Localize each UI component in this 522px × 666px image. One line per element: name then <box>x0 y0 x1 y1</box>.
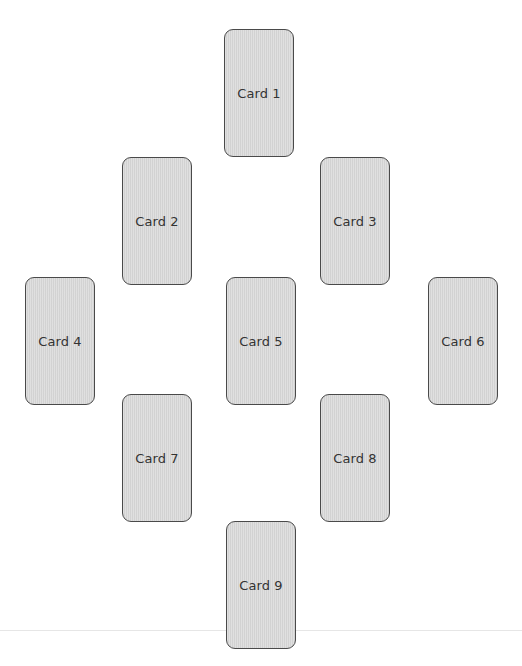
card-6: Card 6 <box>428 277 498 405</box>
card-2: Card 2 <box>122 157 192 285</box>
card-label: Card 4 <box>38 334 81 349</box>
card-8: Card 8 <box>320 394 390 522</box>
card-label: Card 1 <box>237 86 280 101</box>
card-label: Card 2 <box>135 214 178 229</box>
card-1: Card 1 <box>224 29 294 157</box>
card-label: Card 5 <box>239 334 282 349</box>
card-label: Card 3 <box>333 214 376 229</box>
card-label: Card 6 <box>441 334 484 349</box>
card-9: Card 9 <box>226 521 296 649</box>
card-5: Card 5 <box>226 277 296 405</box>
card-7: Card 7 <box>122 394 192 522</box>
card-3: Card 3 <box>320 157 390 285</box>
card-label: Card 7 <box>135 451 178 466</box>
card-4: Card 4 <box>25 277 95 405</box>
card-label: Card 9 <box>239 578 282 593</box>
card-label: Card 8 <box>333 451 376 466</box>
